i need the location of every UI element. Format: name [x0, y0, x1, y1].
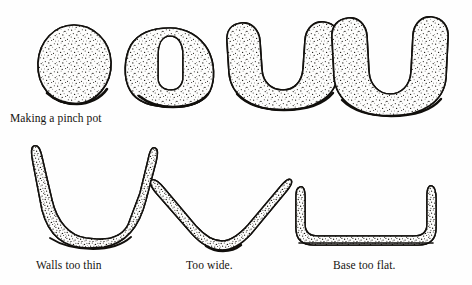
caption-making-a-pinch-pot: Making a pinch pot: [10, 112, 102, 124]
caption-walls-too-thin: Walls too thin: [36, 259, 102, 271]
caption-too-wide: Too wide.: [186, 259, 233, 271]
pinch-pot-illustration: [0, 0, 472, 285]
caption-base-too-flat: Base too flat.: [333, 259, 395, 271]
pinch-pot-figure: Making a pinch pot Walls too thin Too wi…: [0, 0, 472, 285]
